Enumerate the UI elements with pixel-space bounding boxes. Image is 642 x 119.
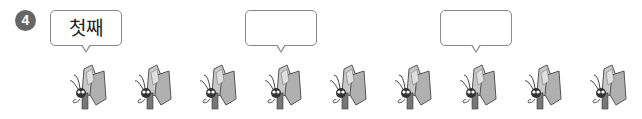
butterfly-icon bbox=[458, 63, 498, 113]
problem-number-badge: 4 bbox=[15, 10, 36, 31]
speech-bubble-first: 첫째 bbox=[50, 10, 122, 46]
butterfly-icon bbox=[588, 63, 628, 113]
speech-bubble-answer-1[interactable] bbox=[245, 10, 317, 46]
bubble-tail bbox=[81, 45, 91, 53]
ordinal-label: 첫째 bbox=[51, 11, 121, 45]
butterfly-icon bbox=[393, 63, 433, 113]
butterfly-icon bbox=[328, 63, 368, 113]
bubble-tail bbox=[471, 45, 481, 53]
butterfly-icon bbox=[263, 63, 303, 113]
butterfly-icon bbox=[523, 63, 563, 113]
butterfly-icon bbox=[68, 63, 108, 113]
speech-bubble-answer-2[interactable] bbox=[440, 10, 512, 46]
bubble-tail bbox=[276, 45, 286, 53]
butterfly-icon bbox=[133, 63, 173, 113]
butterfly-icon bbox=[198, 63, 238, 113]
